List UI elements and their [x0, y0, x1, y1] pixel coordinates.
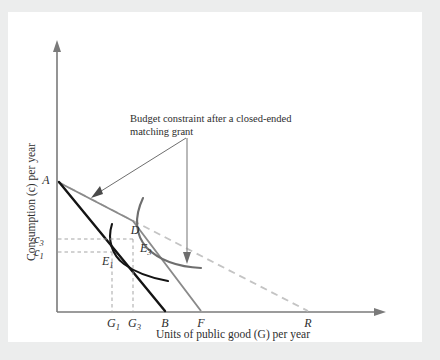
annotation-leader-vertical: [183, 138, 191, 264]
label-point-e3-subscript: 3: [146, 247, 151, 257]
xtick-label-g1-subscript: 1: [116, 322, 120, 332]
xtick-label-g3-subscript: 3: [136, 322, 141, 332]
budget-line-closed-ended-matching-grant: [58, 182, 201, 311]
guide-lines-group: [58, 239, 133, 312]
annotation-text-line1: Budget constraint after a closed-ended: [130, 113, 292, 124]
annotation-down-arrowhead: [183, 252, 191, 264]
y-axis-arrowhead: [53, 40, 61, 52]
label-point-d: D: [130, 223, 140, 237]
x-axis-title: Units of public good (G) per year: [156, 328, 310, 341]
xtick-label-b: B: [161, 316, 169, 330]
economics-budget-constraint-chart: Consumption (c) per year Units of public…: [8, 12, 422, 342]
annotation-leader-diagonal: [91, 138, 186, 198]
ytick-label-c1-subscript: 1: [40, 251, 44, 261]
label-point-a: A: [41, 173, 50, 187]
annotation-diagonal-arrowhead: [91, 186, 103, 198]
figure-panel: Consumption (c) per year Units of public…: [8, 12, 422, 342]
xtick-label-g1: G1: [107, 316, 120, 332]
axes-group: [53, 40, 386, 316]
annotation-text-line2: matching grant: [130, 126, 193, 137]
label-point-e1: E1: [101, 254, 114, 270]
x-axis-arrowhead: [374, 308, 386, 316]
figure-page: Consumption (c) per year Units of public…: [0, 0, 440, 360]
xtick-label-g3: G3: [128, 316, 141, 332]
label-point-e1-subscript: 1: [109, 260, 113, 270]
indifference-curve-e3: [137, 198, 201, 268]
xtick-label-r: R: [303, 316, 312, 330]
annotation-diagonal-line: [98, 138, 186, 193]
xtick-label-f: F: [196, 316, 205, 330]
